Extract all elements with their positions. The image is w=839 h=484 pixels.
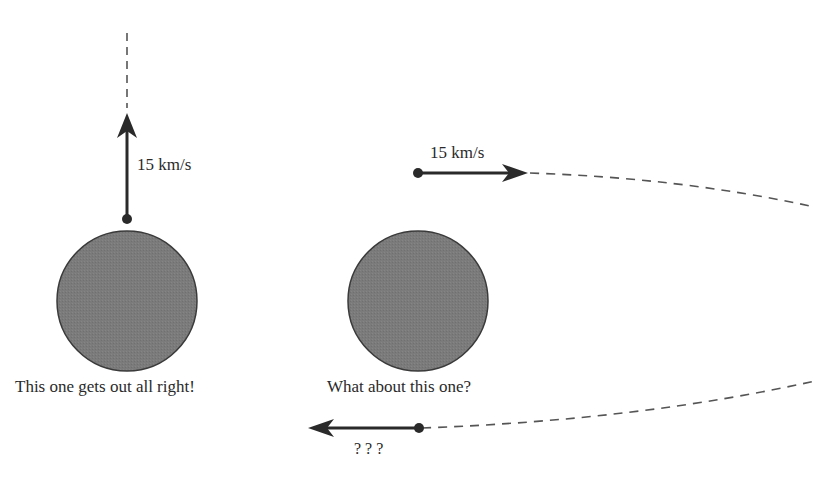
projectile-dot-right-bottom [414, 423, 424, 433]
planet-left [57, 231, 197, 371]
projectile-dot-left [122, 214, 132, 224]
velocity-label-left: 15 km/s [137, 155, 191, 175]
orbit-trajectory-returning-dashed [422, 381, 815, 428]
velocity-label-right: 15 km/s [430, 143, 484, 163]
projectile-dot-right-top [413, 168, 423, 178]
orbit-trajectory-outgoing-dashed [530, 173, 810, 206]
planet-right [348, 231, 488, 371]
diagram-canvas [0, 0, 839, 484]
caption-right: What about this one? [327, 377, 471, 397]
unknown-velocity-label: ? ? ? [354, 440, 383, 458]
escape-velocity-diagram: 15 km/s This one gets out all right! 15 … [0, 0, 839, 484]
caption-left: This one gets out all right! [15, 377, 195, 397]
